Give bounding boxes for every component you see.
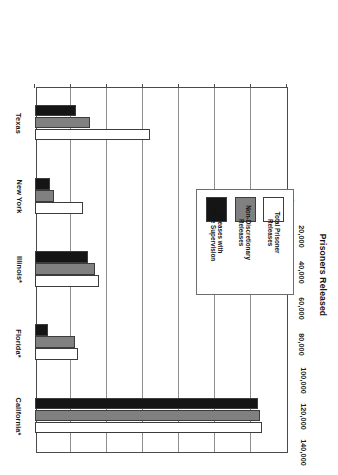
category-axis-label: California* bbox=[4, 409, 34, 423]
legend-label-text: Releases with Parole Supervision bbox=[209, 204, 224, 261]
category-axis-label-text: California* bbox=[15, 397, 24, 435]
bar bbox=[35, 129, 150, 141]
bar bbox=[35, 348, 78, 360]
category-axis-label: Illinois* bbox=[4, 263, 34, 277]
rotated-figure-container: Prisoners Released 020,00040,00060,00080… bbox=[0, 0, 338, 475]
bar bbox=[35, 410, 260, 422]
axis-tick-label-text: 60,000 bbox=[297, 298, 306, 321]
value-axis-title-text: Prisoners Released bbox=[318, 234, 328, 317]
category-axis-label-text: Illinois* bbox=[15, 256, 24, 283]
axis-tick-label-text: 100,000 bbox=[299, 368, 308, 395]
axis-tick-label: 100,000 bbox=[290, 375, 316, 387]
axis-tick-label: 140,000 bbox=[290, 447, 316, 459]
legend-label: Non-Discretionary Releases bbox=[231, 225, 259, 288]
category-axis-label-text: New York bbox=[15, 180, 24, 214]
category-axis-label: Florida* bbox=[4, 336, 34, 350]
axis-tick-label: 120,000 bbox=[290, 411, 316, 423]
category-axis-label-text: Florida* bbox=[15, 329, 24, 357]
axis-tick-mark bbox=[34, 84, 35, 88]
axis-tick-label-text: 20,000 bbox=[297, 226, 306, 249]
axis-tick-label-text: 40,000 bbox=[297, 262, 306, 285]
legend-entry: Total Prisoner Releases bbox=[260, 197, 288, 288]
bar bbox=[35, 336, 76, 348]
category-axis-label: Texas bbox=[4, 117, 34, 131]
bar bbox=[35, 275, 99, 287]
value-axis-title: Prisoners Released bbox=[314, 75, 332, 475]
bar bbox=[35, 324, 49, 336]
bar bbox=[35, 105, 76, 117]
bar bbox=[35, 117, 90, 129]
legend-label-text: Total Prisoner Releases bbox=[266, 211, 281, 253]
category-axis-label-text: Texas bbox=[15, 113, 24, 134]
axis-tick-label: 80,000 bbox=[290, 339, 316, 351]
legend-entry: Releases with Parole Supervision bbox=[202, 197, 230, 288]
bar bbox=[35, 398, 258, 410]
bar bbox=[35, 263, 95, 275]
bar bbox=[35, 190, 54, 202]
legend-label-text: Non-Discretionary Releases bbox=[238, 205, 253, 260]
bar bbox=[35, 178, 50, 190]
bar bbox=[35, 422, 262, 434]
axis-tick-label-text: 140,000 bbox=[299, 440, 308, 467]
axis-tick-label-text: 120,000 bbox=[299, 404, 308, 431]
bar bbox=[35, 251, 88, 263]
category-axis-label: New York bbox=[4, 190, 34, 204]
chart-legend: Total Prisoner ReleasesNon-Discretionary… bbox=[196, 189, 294, 295]
axis-tick-label-text: 80,000 bbox=[297, 334, 306, 357]
legend-label: Releases with Parole Supervision bbox=[202, 225, 230, 288]
bar bbox=[35, 202, 83, 214]
bar-chart-figure: Prisoners Released 020,00040,00060,00080… bbox=[0, 0, 338, 475]
legend-label: Total Prisoner Releases bbox=[260, 225, 288, 288]
legend-entry: Non-Discretionary Releases bbox=[231, 197, 259, 288]
axis-tick-label: 60,000 bbox=[290, 303, 316, 315]
category-axis-labels: California*Florida*Illinois*New YorkTexa… bbox=[4, 87, 34, 453]
